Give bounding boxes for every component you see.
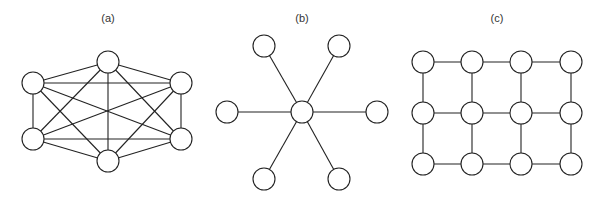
node-c11 [412, 51, 434, 73]
node-c22 [461, 102, 483, 124]
node-b3 [216, 101, 238, 123]
panel-c-label: (c) [491, 12, 504, 24]
panel-c-grid-graph [412, 51, 582, 175]
node-c12 [461, 51, 483, 73]
edge-a2-a4 [108, 62, 181, 139]
node-c32 [461, 153, 483, 175]
node-c23 [510, 102, 532, 124]
node-c24 [560, 102, 582, 124]
panel-b-star-graph [216, 35, 388, 190]
panel-a-label: (a) [101, 12, 114, 24]
edge-b0-b5 [264, 112, 302, 179]
node-b6 [328, 168, 350, 190]
edge-a2-a6 [33, 62, 108, 139]
node-c13 [510, 51, 532, 73]
node-c14 [560, 51, 582, 73]
edge-a1-a2 [33, 62, 108, 83]
node-a1 [22, 72, 44, 94]
node-b4 [366, 101, 388, 123]
node-a2 [97, 51, 119, 73]
node-c31 [412, 153, 434, 175]
edge-a1-a5 [33, 83, 108, 161]
node-c21 [412, 102, 434, 124]
panel-b-label: (b) [295, 12, 308, 24]
node-a4 [170, 128, 192, 150]
node-a3 [170, 72, 192, 94]
panel-a-complete-graph [22, 51, 192, 172]
node-b5 [253, 168, 275, 190]
diagram-canvas [0, 0, 600, 197]
edge-a3-a5 [108, 83, 181, 161]
node-b0 [291, 101, 313, 123]
node-a6 [22, 128, 44, 150]
node-b1 [253, 35, 275, 57]
node-b2 [328, 35, 350, 57]
node-a5 [97, 150, 119, 172]
node-c33 [510, 153, 532, 175]
node-c34 [560, 153, 582, 175]
